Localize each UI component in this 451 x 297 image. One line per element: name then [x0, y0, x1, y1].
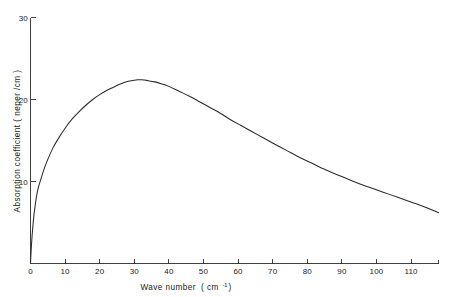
x-tick-label-40: 40: [164, 267, 174, 276]
x-tick-label-110: 110: [404, 267, 418, 276]
x-axis-title: Wave number ( cm -1 ): [140, 282, 231, 293]
x-tick-label-10: 10: [60, 267, 70, 276]
data-curve-absorption-coefficient: [31, 80, 439, 264]
x-axis-unit-superscript: -1: [223, 282, 228, 288]
x-axis-title-text: Wave number: [140, 283, 196, 292]
x-axis-tick-labels: 0 10 20 30 40 50 60 70 80 90 100 110: [28, 267, 418, 276]
absorption-coefficient-line-chart: 30 20 10 0 10 20 30 40 50: [0, 0, 451, 297]
x-tick-label-70: 70: [268, 267, 278, 276]
x-tick-label-20: 20: [95, 267, 105, 276]
y-axis-ticks: [31, 18, 36, 182]
y-axis-title-text: Absorption coefficient ( neper /cm ): [13, 69, 22, 212]
y-tick-label-30: 30: [19, 14, 29, 23]
x-axis-unit-close: ): [229, 283, 232, 292]
x-tick-label-80: 80: [303, 267, 313, 276]
x-axis-unit-open: ( cm: [201, 283, 219, 292]
x-tick-label-0: 0: [28, 267, 33, 276]
x-tick-label-50: 50: [199, 267, 209, 276]
x-tick-label-60: 60: [233, 267, 243, 276]
x-tick-label-30: 30: [130, 267, 140, 276]
x-axis-ticks: [31, 259, 439, 264]
chart-figure: 30 20 10 0 10 20 30 40 50: [0, 0, 451, 297]
x-tick-label-90: 90: [337, 267, 347, 276]
x-tick-label-100: 100: [370, 267, 384, 276]
